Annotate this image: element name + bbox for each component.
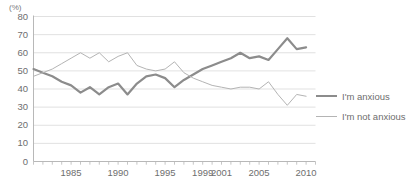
x-axis-tick-label: 2010 — [296, 167, 317, 178]
legend-item-anxious: I'm anxious — [316, 86, 414, 106]
chart-legend: I'm anxious I'm not anxious — [316, 86, 414, 126]
y-axis-tick-label: 70 — [4, 30, 28, 40]
x-axis-tick-label: 1985 — [61, 167, 82, 178]
legend-line-swatch-not-anxious — [316, 116, 337, 117]
chart-container: (%) 01020304050607080 198519901995199920… — [0, 0, 414, 191]
y-axis-tick-label: 10 — [4, 138, 28, 148]
legend-line-swatch-anxious — [316, 95, 337, 97]
y-axis-tick-label: 60 — [4, 48, 28, 58]
y-axis-tick-label: 80 — [4, 12, 28, 22]
series-line-anxious — [34, 38, 307, 94]
x-axis-tick-label: 1995 — [155, 167, 176, 178]
x-axis-tick-label: 2001 — [211, 167, 232, 178]
legend-label-not-anxious: I'm not anxious — [342, 111, 406, 122]
y-axis-tick-label: 30 — [4, 102, 28, 112]
x-axis-tick-label: 2005 — [249, 167, 270, 178]
series-line-not-anxious — [34, 53, 307, 106]
legend-item-not-anxious: I'm not anxious — [316, 106, 414, 126]
x-axis-tick-label: 1990 — [108, 167, 129, 178]
y-axis-tick-label: 50 — [4, 66, 28, 76]
y-axis-tick-label: 20 — [4, 120, 28, 130]
legend-label-anxious: I'm anxious — [342, 91, 390, 102]
y-axis-tick-label: 40 — [4, 84, 28, 94]
y-axis-tick-label: 0 — [4, 157, 28, 167]
